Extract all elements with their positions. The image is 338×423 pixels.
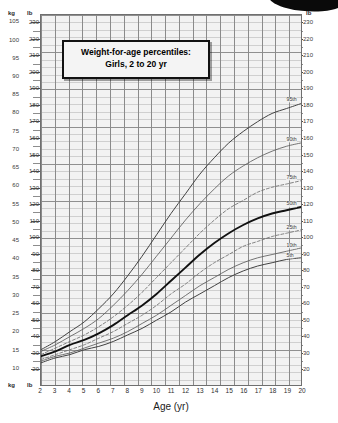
axis-tick-label: 10 [12,365,19,371]
percentile-label-25th: 25th [286,225,297,230]
percentile-label-75th: 75th [286,175,297,180]
axis-tick-label: 15 [12,347,19,353]
axis-tick-label: 75 [12,128,19,134]
axis-tick-label: 20 [12,328,19,334]
axis-tick-mark [31,287,40,288]
axis-tick-label: 190 [303,85,313,91]
axis-tick-mark [33,229,40,230]
axis-tick-mark [33,163,40,164]
axis-tick-label: 95 [12,55,19,61]
axis-tick-mark [33,47,40,48]
axis-tick-label: 105 [9,18,19,24]
axis-tick-label: 40 [12,255,19,261]
axis-tick-mark [31,237,40,238]
axis-tick-label: 150 [303,152,313,158]
axis-tick-label: 120 [303,201,313,207]
chart-title-line1: Weight-for-age percentiles: [68,47,204,58]
axis-tick-label: 100 [303,234,313,240]
axis-tick-mark [31,320,40,321]
percentile-label-95th: 95th [286,98,297,103]
axis-tick-label: 30 [303,350,310,356]
axis-tick-mark [31,336,40,337]
axis-tick-label: 60 [12,182,19,188]
percentile-curve-95th [41,104,301,350]
axis-tick-label: 20 [303,366,310,372]
axis-tick-mark [31,155,40,156]
percentile-label-10th: 10th [286,243,297,248]
axis-tick-mark [33,345,40,346]
axis-tick-label: 80 [303,267,310,273]
percentile-curve-50th [41,207,301,356]
x-axis-tick-label: 12 [182,388,189,395]
axis-tick-label: 70 [12,146,19,152]
chart-title-box: Weight-for-age percentiles: Girls, 2 to … [62,40,210,79]
y-axis-kg-left: 1051009590858075706560555045403530252015… [2,8,19,392]
axis-tick-mark [33,295,40,296]
axis-tick-label: 85 [12,91,19,97]
axis-tick-mark [31,105,40,106]
axis-tick-mark [33,31,40,32]
percentile-label-90th: 90th [286,137,297,142]
lb-unit-footer-left: lb [27,382,32,388]
axis-tick-mark [31,138,40,139]
axis-tick-label: 90 [303,251,310,257]
x-axis-tick-label: 6 [96,388,100,395]
axis-tick-label: 80 [12,109,19,115]
axis-tick-mark [31,221,40,222]
axis-tick-mark [33,196,40,197]
axis-tick-label: 100 [9,37,19,43]
kg-unit-footer-left: kg [8,382,15,388]
x-axis-tick-label: 19 [284,388,291,395]
axis-tick-mark [31,39,40,40]
axis-tick-mark [31,188,40,189]
axis-tick-label: 210 [303,52,313,58]
x-axis-tick-label: 8 [126,388,130,395]
x-axis-tick-label: 15 [226,388,233,395]
axis-tick-mark [33,179,40,180]
x-axis-tick-label: 4 [67,388,71,395]
x-axis-title: Age (yr) [40,401,302,412]
x-axis-tick-label: 20 [298,388,305,395]
percentile-curve-25th [41,230,301,360]
x-axis-tick-label: 10 [153,388,160,395]
percentile-label-50th: 50th [286,202,297,207]
x-axis-tick-label: 3 [53,388,57,395]
axis-tick-mark [33,64,40,65]
axis-tick-label: 65 [12,164,19,170]
axis-tick-label: 200 [303,69,313,75]
growth-chart-page: kg lb lb 1051009590858075706560555045403… [0,0,338,423]
x-axis-tick-label: 16 [240,388,247,395]
axis-tick-mark [31,270,40,271]
x-axis-tick-label: 5 [82,388,86,395]
x-axis-tick-label: 2 [38,388,42,395]
axis-tick-mark [31,72,40,73]
axis-tick-mark [33,113,40,114]
x-axis-ticks: 234567891011121314151617181920 [40,388,302,400]
axis-tick-label: 45 [12,237,19,243]
axis-tick-label: 50 [12,219,19,225]
x-axis-tick-label: 17 [255,388,262,395]
x-axis-tick-label: 13 [196,388,203,395]
axis-tick-label: 60 [303,300,310,306]
percentile-curve-90th [41,143,301,351]
axis-tick-mark [31,254,40,255]
axis-tick-mark [33,262,40,263]
axis-tick-mark [31,88,40,89]
axis-tick-mark [33,361,40,362]
y-axis-lb-right: 2302202102001901801701601501401301201101… [303,8,321,392]
x-axis-tick-label: 9 [140,388,144,395]
axis-tick-label: 70 [303,284,310,290]
axis-tick-mark [31,121,40,122]
axis-tick-mark [33,279,40,280]
axis-tick-label: 30 [12,292,19,298]
axis-tick-label: 50 [303,317,310,323]
axis-tick-mark [33,328,40,329]
axis-tick-label: 230 [303,19,313,25]
axis-tick-label: 170 [303,118,313,124]
axis-tick-label: 140 [303,168,313,174]
percentile-label-5th: 5th [286,253,294,258]
x-axis-tick-label: 11 [168,388,175,395]
axis-tick-mark [31,55,40,56]
axis-tick-mark [31,369,40,370]
axis-tick-mark [31,353,40,354]
